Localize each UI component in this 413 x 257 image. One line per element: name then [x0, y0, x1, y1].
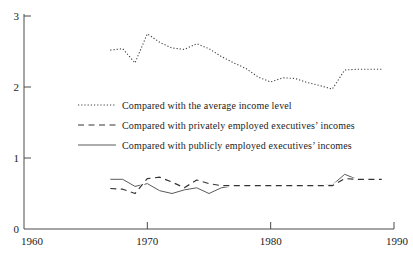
x-tick-label: 1960: [21, 235, 44, 247]
legend-item-privately-employed: Compared with privately employed executi…: [78, 115, 355, 135]
legend-item-average-income: Compared with the average income level: [78, 95, 355, 115]
legend-label-privately-employed: Compared with privately employed executi…: [122, 120, 355, 131]
legend-label-average-income: Compared with the average income level: [122, 100, 292, 111]
y-tick-label: 1: [14, 152, 20, 164]
y-tick-label: 3: [14, 10, 20, 22]
series-line-dotted: [110, 34, 381, 89]
y-tick-label: 0: [14, 223, 20, 235]
dotted-line-swatch-icon: [78, 102, 116, 108]
legend-label-publicly-employed: Compared with publicly employed executiv…: [122, 140, 352, 151]
x-tick-label: 1990: [386, 235, 409, 247]
y-tick-label: 2: [14, 81, 20, 93]
line-chart-figure: 01231960197019801990 Compared with the a…: [0, 0, 413, 257]
x-tick-label: 1980: [260, 235, 283, 247]
legend-item-publicly-employed: Compared with publicly employed executiv…: [78, 135, 355, 155]
x-tick-label: 1970: [136, 235, 159, 247]
legend: Compared with the average income level C…: [78, 95, 355, 155]
solid-line-swatch-icon: [78, 142, 116, 148]
dashed-line-swatch-icon: [78, 122, 116, 128]
